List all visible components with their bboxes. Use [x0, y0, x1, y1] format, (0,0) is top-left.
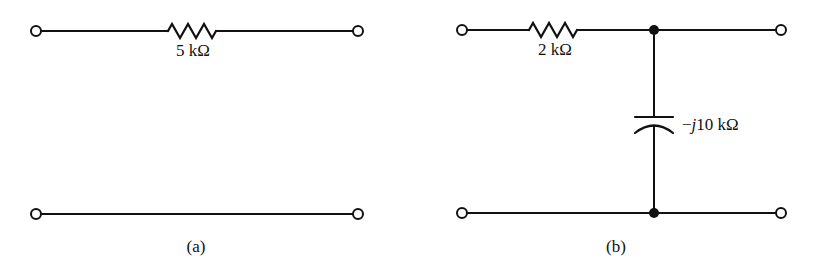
caption-b: (b) — [606, 237, 626, 256]
terminal-b-bottom-left — [457, 208, 467, 218]
terminal-b-top-left — [457, 25, 467, 35]
resistor-5k-icon — [168, 24, 216, 38]
terminal-a-top-right — [353, 26, 363, 36]
circuit-a: 5 kΩ (a) — [31, 24, 363, 256]
circuit-b: 2 kΩ −j10 kΩ (b) — [457, 23, 786, 256]
terminal-a-bottom-right — [353, 209, 363, 219]
minus-sign: − — [682, 115, 692, 134]
resistor-2k-icon — [529, 23, 577, 37]
junction-node-bottom — [649, 208, 659, 218]
caption-a: (a) — [187, 237, 206, 256]
terminal-a-top-left — [31, 26, 41, 36]
resistor-2k-label: 2 kΩ — [538, 40, 572, 59]
terminal-a-bottom-left — [31, 209, 41, 219]
terminal-b-bottom-right — [776, 208, 786, 218]
capacitor-value: 10 kΩ — [696, 115, 738, 134]
terminal-b-top-right — [776, 25, 786, 35]
circuit-diagram: 5 kΩ (a) 2 kΩ −j10 kΩ (b) — [0, 0, 818, 270]
capacitor-impedance-label: −j10 kΩ — [682, 115, 739, 134]
resistor-5k-label: 5 kΩ — [176, 41, 210, 60]
